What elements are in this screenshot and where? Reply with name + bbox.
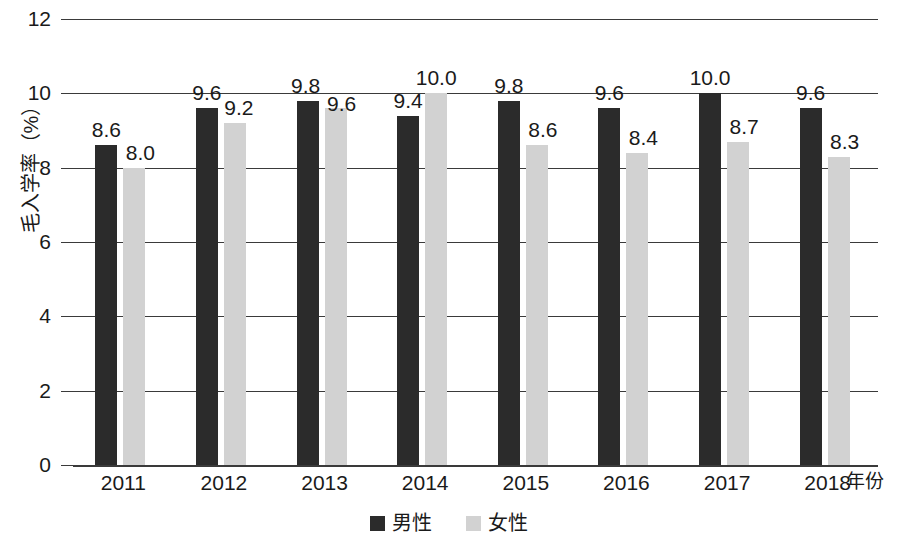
bar-value-label: 8.6: [81, 119, 131, 140]
bar-男性-2015: [498, 101, 520, 465]
bar-男性-2017: [699, 93, 721, 465]
bar-value-label: 10.0: [411, 67, 461, 88]
gridline: [73, 19, 878, 20]
y-tick-mark: [61, 168, 73, 169]
bar-value-label: 8.3: [820, 131, 870, 152]
bar-男性-2016: [598, 108, 620, 465]
legend-swatch-icon: [370, 516, 385, 531]
gridline: [73, 168, 878, 169]
legend-item-女性[interactable]: 女性: [466, 513, 528, 533]
y-tick-label: 6: [0, 231, 51, 252]
bar-女性-2017: [727, 142, 749, 465]
x-tick-label-2011: 2011: [78, 472, 168, 493]
y-tick-mark: [61, 19, 73, 20]
y-tick-mark: [61, 316, 73, 317]
x-tick-label-2012: 2012: [179, 472, 269, 493]
gridline: [73, 391, 878, 392]
bar-女性-2011: [123, 168, 145, 465]
gridline: [73, 316, 878, 317]
bar-value-label: 9.6: [584, 82, 634, 103]
y-tick-label: 12: [0, 8, 51, 29]
bar-男性-2013: [297, 101, 319, 465]
bar-chart: 毛入学率（%） 121086420 8.68.09.69.29.89.69.41…: [0, 0, 897, 541]
bar-value-label: 8.4: [618, 127, 668, 148]
bar-value-label: 9.6: [317, 93, 367, 114]
bar-女性-2012: [224, 123, 246, 465]
bar-value-label: 9.2: [214, 97, 264, 118]
x-tick-label-2016: 2016: [581, 472, 671, 493]
bar-女性-2013: [325, 108, 347, 465]
y-tick-label: 10: [0, 82, 51, 103]
x-tick-label-2015: 2015: [481, 472, 571, 493]
bar-男性-2014: [397, 116, 419, 465]
bar-男性-2011: [95, 145, 117, 465]
bar-value-label: 9.6: [786, 82, 836, 103]
bar-女性-2015: [526, 145, 548, 465]
y-tick-mark: [61, 242, 73, 243]
y-tick-label: 4: [0, 305, 51, 326]
plot-area: 8.68.09.69.29.89.69.410.09.88.69.68.410.…: [73, 19, 878, 465]
legend-label: 女性: [488, 513, 528, 533]
y-tick-mark: [61, 465, 73, 466]
bar-value-label: 8.0: [115, 142, 165, 163]
x-tick-label-2014: 2014: [380, 472, 470, 493]
gridline: [73, 242, 878, 243]
bar-value-label: 8.7: [719, 116, 769, 137]
legend-label: 男性: [392, 513, 432, 533]
bar-value-label: 9.8: [484, 75, 534, 96]
legend-item-男性[interactable]: 男性: [370, 513, 432, 533]
bar-value-label: 8.6: [518, 119, 568, 140]
x-tick-label-2013: 2013: [280, 472, 370, 493]
bar-女性-2016: [626, 153, 648, 465]
x-axis-line: [73, 465, 878, 467]
y-tick-label: 8: [0, 157, 51, 178]
bar-女性-2018: [828, 157, 850, 465]
legend-swatch-icon: [466, 516, 481, 531]
x-tick-label-2017: 2017: [682, 472, 772, 493]
bar-男性-2012: [196, 108, 218, 465]
y-tick-label: 0: [0, 454, 51, 475]
chart-legend: 男性女性: [0, 513, 897, 533]
bar-value-label: 10.0: [685, 67, 735, 88]
bar-女性-2014: [425, 93, 447, 465]
bar-男性-2018: [800, 108, 822, 465]
x-axis-title: 年份: [846, 472, 884, 491]
y-tick-label: 2: [0, 380, 51, 401]
y-tick-mark: [61, 93, 73, 94]
y-tick-mark: [61, 391, 73, 392]
